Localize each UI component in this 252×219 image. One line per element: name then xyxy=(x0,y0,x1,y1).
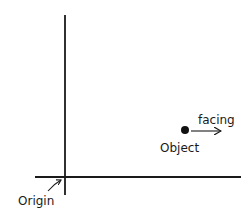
facing-label: facing xyxy=(198,113,235,127)
origin-label: Origin xyxy=(18,194,54,208)
object-label: Object xyxy=(160,141,199,155)
origin-pointer-arrow xyxy=(48,180,61,191)
coordinate-diagram: facing Object Origin xyxy=(0,0,252,219)
object-point-icon xyxy=(181,126,189,134)
